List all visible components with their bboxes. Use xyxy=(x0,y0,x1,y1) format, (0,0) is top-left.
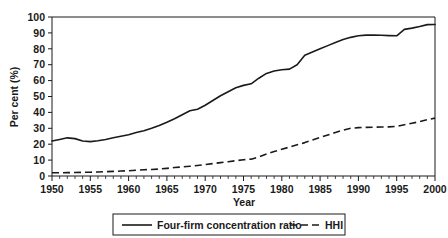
x-tick-label: 1970 xyxy=(194,183,218,195)
y-tick-label: 20 xyxy=(33,138,45,150)
plot-axes xyxy=(48,17,435,181)
line-chart: 0102030405060708090100 19501955196019651… xyxy=(0,0,448,238)
x-axis-title: Year xyxy=(233,196,255,208)
x-axis-major-ticks xyxy=(52,176,435,181)
x-tick-label: 1975 xyxy=(232,183,256,195)
series-four-firm-concentration-ratio xyxy=(52,24,435,141)
y-axis-ticks xyxy=(48,17,52,176)
y-tick-label: 80 xyxy=(33,43,45,55)
y-tick-label: 100 xyxy=(27,11,45,23)
x-tick-label: 1955 xyxy=(79,183,103,195)
chart-figure: 0102030405060708090100 19501955196019651… xyxy=(0,0,448,238)
x-tick-label: 1950 xyxy=(40,183,64,195)
x-tick-label: 1990 xyxy=(347,183,371,195)
y-tick-label: 10 xyxy=(33,154,45,166)
x-tick-label: 1995 xyxy=(385,183,409,195)
x-tick-label: 1980 xyxy=(270,183,294,195)
y-tick-label: 50 xyxy=(33,90,45,102)
x-tick-label: 1985 xyxy=(308,183,332,195)
x-tick-label: 1960 xyxy=(117,183,141,195)
x-tick-label: 1965 xyxy=(155,183,179,195)
x-tick-label: 2000 xyxy=(423,183,447,195)
series-hhi xyxy=(52,118,435,173)
y-tick-label: 90 xyxy=(33,27,45,39)
legend-label-hhi: HHI xyxy=(325,219,343,231)
y-tick-label: 70 xyxy=(33,58,45,70)
legend-label-four-firm-concentration-ratio: Four-firm concentration ratio xyxy=(157,219,302,231)
y-axis-tick-labels: 0102030405060708090100 xyxy=(27,11,45,182)
plot-frame xyxy=(52,17,435,176)
y-tick-label: 40 xyxy=(33,106,45,118)
y-tick-label: 0 xyxy=(39,170,45,182)
y-tick-label: 60 xyxy=(33,74,45,86)
x-axis-tick-labels: 1950195519601965197019751980198519901995… xyxy=(40,183,447,195)
data-series-group xyxy=(52,24,435,172)
chart-legend: Four-firm concentration ratio HHI xyxy=(113,214,345,235)
y-axis-title: Per cent (%) xyxy=(8,67,20,128)
y-tick-label: 30 xyxy=(33,122,45,134)
